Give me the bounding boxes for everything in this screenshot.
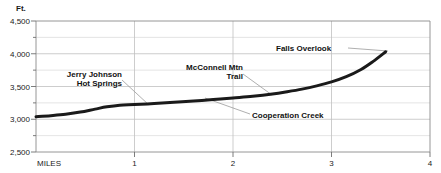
- x-axis-origin-label: MILES: [37, 159, 61, 168]
- annotation-mcconnell-line1: McConnell Mtn: [143, 63, 243, 72]
- x-tick-label-4: 4: [418, 159, 441, 168]
- elevation-profile-chart: Ft. 4,500 4,000 3,500 3,000 2,500 MILES …: [0, 0, 441, 173]
- x-axis-ticks: [135, 152, 431, 157]
- y-axis-unit-label: Ft.: [16, 4, 26, 13]
- annotation-mcconnell-line2: Trail: [143, 72, 243, 81]
- annotation-cooperation-creek: Cooperation Creek: [252, 111, 324, 120]
- annotation-jerry-johnson-line1: Jerry Johnson: [22, 70, 122, 79]
- y-tick-label-4000: 4,000: [0, 50, 30, 59]
- y-tick-label-2500: 2,500: [0, 148, 30, 157]
- x-tick-label-3: 3: [320, 159, 344, 168]
- x-tick-label-2: 2: [221, 159, 245, 168]
- leader-line-falls-overlook: [348, 48, 388, 51]
- y-tick-label-4500: 4,500: [0, 17, 30, 26]
- annotation-jerry-johnson-line2: Hot Springs: [22, 79, 122, 88]
- annotation-falls-overlook: Falls Overlook: [276, 44, 331, 53]
- annotation-jerry-johnson-hot-springs: Jerry Johnson Hot Springs: [22, 70, 122, 88]
- x-tick-label-1: 1: [123, 159, 147, 168]
- y-tick-label-3000: 3,000: [0, 115, 30, 124]
- leader-line-mcconnell: [243, 74, 272, 95]
- annotation-mcconnell-mtn-trail: McConnell Mtn Trail: [143, 63, 243, 81]
- leader-line-jerry-johnson: [122, 80, 149, 105]
